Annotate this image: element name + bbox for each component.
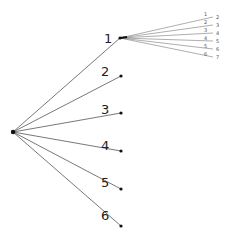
sub-edge-end-label-4: 4 [216, 30, 219, 36]
node-label-1: 1 [104, 31, 112, 46]
node-4 [119, 149, 122, 152]
sub-fan-labels: 122334455667 [204, 11, 219, 60]
root-node [11, 130, 15, 134]
sub-fan-edges [120, 17, 213, 57]
sub-edge-label-5: 5 [204, 43, 207, 49]
node-label-4: 4 [101, 138, 109, 153]
node-label-3: 3 [101, 102, 109, 117]
node-label-2: 2 [101, 64, 109, 79]
sub-edge-3 [120, 33, 213, 38]
node-6 [119, 224, 122, 227]
node-1 [118, 36, 121, 39]
sub-edge-end-label-6: 6 [216, 46, 219, 52]
node-3 [119, 111, 122, 114]
sub-edge-label-3: 3 [204, 27, 207, 33]
sub-edge-end-label-2: 2 [216, 14, 219, 20]
sub-edge-1 [120, 17, 213, 38]
sub-edge-end-label-3: 3 [216, 22, 219, 28]
sub-edge-2 [120, 25, 213, 38]
sub-edge-end-label-5: 5 [216, 38, 219, 44]
node-label-6: 6 [101, 208, 109, 223]
sub-edge-label-1: 1 [204, 11, 207, 17]
node-2 [119, 74, 122, 77]
sub-edge-label-2: 2 [204, 19, 207, 25]
node-labels: 123456 [101, 31, 112, 223]
sub-edge-end-label-7: 7 [216, 54, 219, 60]
tree-diagram: 123456 122334455667 [0, 0, 232, 239]
sub-edge-label-4: 4 [204, 35, 207, 41]
node-label-5: 5 [101, 175, 109, 190]
sub-edge-label-6: 6 [204, 51, 207, 57]
node-5 [119, 187, 122, 190]
